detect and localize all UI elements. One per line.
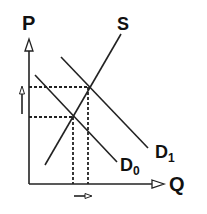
demand-d1-label: D1 [155, 142, 175, 165]
supply-demand-diagram: P Q S D1 D0 [0, 0, 207, 214]
demand-curve-d1 [61, 57, 148, 148]
demand-d0-label: D0 [120, 155, 140, 178]
supply-curve [45, 34, 121, 165]
x-axis [29, 180, 164, 188]
x-axis-arrow-icon [152, 180, 164, 188]
price-increase-arrow-icon [20, 86, 25, 114]
demand-curve-d0 [35, 75, 117, 162]
supply-label: S [117, 14, 129, 34]
y-axis [25, 39, 33, 184]
x-axis-label: Q [169, 173, 185, 195]
y-axis-label: P [22, 12, 35, 34]
quantity-increase-arrow-icon [74, 194, 92, 199]
y-axis-arrow-icon [25, 39, 33, 51]
